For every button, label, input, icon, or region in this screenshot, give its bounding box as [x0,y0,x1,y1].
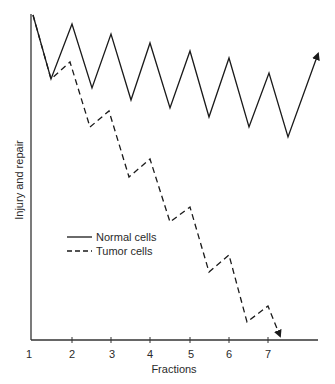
legend-label-tumor: Tumor cells [96,245,153,257]
x-tick-label-2: 2 [69,348,75,360]
y-axis-title: Injury and repair [13,140,25,220]
legend: Normal cells Tumor cells [67,231,157,257]
x-tick-label-3: 3 [109,348,115,360]
x-tick-label-5: 5 [188,348,194,360]
chart: 1 2 3 4 5 6 7 Fractions Injury and repai… [0,0,335,384]
x-axis-title: Fractions [151,363,197,375]
x-tick-label-6: 6 [226,348,232,360]
legend-label-normal: Normal cells [96,231,157,243]
series-normal-cells [33,15,318,137]
x-tick-label-4: 4 [147,348,153,360]
x-tick-label-1: 1 [26,348,32,360]
x-tick-label-7: 7 [265,348,271,360]
